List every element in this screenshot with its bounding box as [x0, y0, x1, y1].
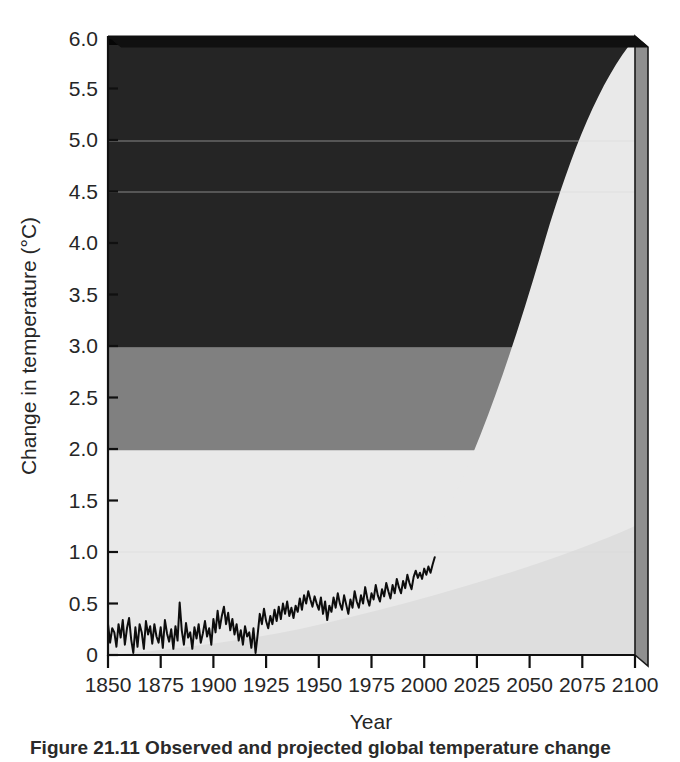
y-tick-label: 5.0 [69, 128, 98, 151]
y-tick-label: 6.0 [69, 27, 98, 50]
figure-caption: Figure 21.11 Observed and projected glob… [30, 740, 611, 758]
x-tick-label: 1900 [190, 673, 237, 696]
y-tick-label: 0 [86, 643, 98, 666]
figure-caption-clip: Figure 21.11 Observed and projected glob… [0, 740, 680, 762]
x-axis-tick-labels: 1850 1875 1900 1925 1950 1975 2000 2025 … [85, 673, 659, 696]
x-axis-ticks [108, 655, 635, 668]
temperature-projection-chart: 0 0.5 1.0 1.5 2.0 2.5 3.0 3.5 4.0 4.5 5.… [0, 0, 680, 762]
y-tick-label: 2.5 [69, 386, 98, 409]
y-tick-label: 4.0 [69, 231, 98, 254]
x-tick-label: 1925 [243, 673, 290, 696]
x-tick-label: 2025 [454, 673, 501, 696]
x-tick-label: 2075 [559, 673, 606, 696]
figure-container: 0 0.5 1.0 1.5 2.0 2.5 3.0 3.5 4.0 4.5 5.… [0, 0, 680, 762]
x-tick-label: 2050 [506, 673, 553, 696]
x-tick-label: 1875 [137, 673, 184, 696]
y-tick-label: 2.0 [69, 437, 98, 460]
plot-right-bevel [635, 36, 648, 666]
y-tick-label: 5.5 [69, 77, 98, 100]
x-tick-label: 2100 [612, 673, 659, 696]
y-tick-label: 1.0 [69, 540, 98, 563]
plot-area [108, 36, 635, 655]
y-tick-label: 0.5 [69, 592, 98, 615]
y-tick-label: 3.0 [69, 334, 98, 357]
x-tick-label: 1950 [295, 673, 342, 696]
x-tick-label: 2000 [401, 673, 448, 696]
x-tick-label: 1850 [85, 673, 132, 696]
y-axis-tick-labels: 0 0.5 1.0 1.5 2.0 2.5 3.0 3.5 4.0 4.5 5.… [69, 27, 98, 666]
x-axis-title: Year [350, 710, 392, 733]
x-tick-label: 1975 [348, 673, 395, 696]
y-tick-label: 3.5 [69, 283, 98, 306]
y-tick-label: 1.5 [69, 489, 98, 512]
y-tick-label: 4.5 [69, 180, 98, 203]
plot-top-bevel-3d [108, 36, 648, 47]
y-axis-title: Change in temperature (°C) [17, 217, 40, 475]
